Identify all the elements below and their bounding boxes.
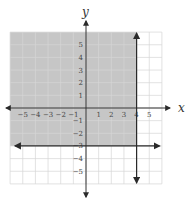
- y-tick-label: −1: [73, 117, 83, 125]
- x-tick-label: 2: [109, 111, 113, 119]
- x-tick-label: −5: [18, 111, 28, 119]
- y-axis-label: y: [81, 5, 89, 19]
- x-axis-label: x: [178, 101, 185, 115]
- y-tick-label: 2: [79, 79, 83, 87]
- y-tick-label: −4: [73, 155, 84, 163]
- x-tick-label: 3: [122, 111, 126, 119]
- x-tick-label: −4: [30, 111, 41, 119]
- y-tick-label: 3: [79, 67, 83, 75]
- x-tick-label: 1: [96, 111, 100, 119]
- y-tick-label: 1: [79, 92, 83, 100]
- y-tick-label: 5: [79, 41, 83, 49]
- y-tick-label: −5: [73, 168, 83, 176]
- y-tick-label: 4: [79, 54, 84, 62]
- x-tick-label: 5: [147, 111, 151, 119]
- x-tick-label: −2: [56, 111, 66, 119]
- y-tick-label: −2: [73, 130, 83, 138]
- inequality-graph: −5−4−3−2−11234554321−1−2−3−4−5 x y: [0, 0, 189, 208]
- x-tick-label: −3: [43, 111, 53, 119]
